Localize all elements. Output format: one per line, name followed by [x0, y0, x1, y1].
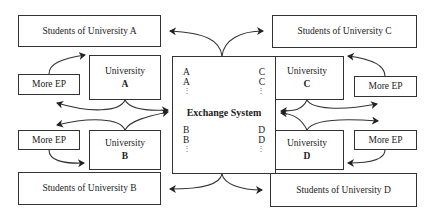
more-ep-c-box: More EP	[354, 76, 417, 97]
university-a-label: University	[105, 65, 145, 78]
entry-b-more: ⋮	[183, 145, 191, 153]
arrow-university-b-to-more-ep-b	[57, 120, 125, 130]
entry-d-1: D	[257, 125, 265, 135]
university-b-box: University B	[89, 130, 161, 170]
university-d-letter: D	[304, 150, 311, 163]
entry-c-more: ⋮	[257, 87, 265, 95]
exchange-d-entries: D D ⋮	[257, 125, 265, 153]
exchange-system-title: Exchange System	[173, 107, 275, 118]
arrow-exchange-to-students-d	[222, 174, 262, 190]
students-university-d-box: Students of University D	[270, 173, 417, 207]
arrow-more-ep-a-to-students-a	[49, 55, 85, 74]
students-university-c-box: Students of University C	[272, 15, 417, 48]
arrow-more-ep-d-to-university-d	[348, 150, 385, 163]
students-university-b-box: Students of University B	[18, 172, 161, 205]
arrow-university-a-to-more-ep-a	[57, 100, 125, 110]
arrow-university-c-to-exchange	[281, 100, 307, 111]
exchange-a-entries: A A ⋮	[183, 67, 191, 95]
students-c-label: Students of University C	[297, 25, 391, 38]
more-ep-c-label: More EP	[368, 80, 402, 93]
arrow-more-ep-c-to-students-c	[348, 56, 385, 76]
exchange-c-entries: C C ⋮	[257, 67, 265, 95]
arrow-university-d-to-exchange	[281, 113, 307, 130]
more-ep-a-box: More EP	[18, 74, 80, 95]
more-ep-b-label: More EP	[32, 134, 66, 147]
students-b-label: Students of University B	[42, 182, 136, 195]
arrow-exchange-to-students-a	[170, 31, 222, 56]
entry-d-more: ⋮	[257, 145, 265, 153]
arrow-university-d-to-more-ep-d	[307, 120, 378, 130]
entry-c-1: C	[257, 67, 265, 77]
more-ep-d-box: More EP	[354, 130, 417, 150]
university-c-label: University	[287, 65, 327, 78]
arrow-university-c-to-more-ep-c	[307, 100, 377, 108]
university-d-label: University	[287, 137, 327, 150]
university-b-label: University	[105, 137, 145, 150]
exchange-b-entries: B B ⋮	[183, 125, 191, 153]
university-d-box: University D	[270, 130, 344, 170]
university-c-box: University C	[270, 56, 344, 100]
university-c-letter: C	[304, 78, 311, 91]
university-a-box: University A	[89, 55, 161, 100]
entry-a-more: ⋮	[183, 87, 191, 95]
entry-b-1: B	[183, 125, 191, 135]
exchange-system-box: A A ⋮ C C ⋮ Exchange System B B ⋮ D D ⋮	[172, 56, 276, 174]
university-b-letter: B	[122, 150, 128, 163]
arrow-exchange-to-students-c	[222, 31, 263, 56]
more-ep-b-box: More EP	[18, 130, 80, 150]
more-ep-d-label: More EP	[368, 134, 402, 147]
students-d-label: Students of University D	[296, 184, 391, 197]
students-a-label: Students of University A	[42, 25, 136, 38]
arrow-university-b-to-exchange	[125, 112, 168, 130]
arrow-more-ep-b-to-university-b	[49, 150, 84, 163]
entry-a-1: A	[183, 67, 191, 77]
arrow-exchange-to-students-b	[170, 174, 222, 189]
students-university-a-box: Students of University A	[18, 15, 161, 47]
university-a-letter: A	[122, 78, 129, 91]
arrow-university-a-to-exchange	[125, 100, 168, 110]
more-ep-a-label: More EP	[32, 78, 66, 91]
